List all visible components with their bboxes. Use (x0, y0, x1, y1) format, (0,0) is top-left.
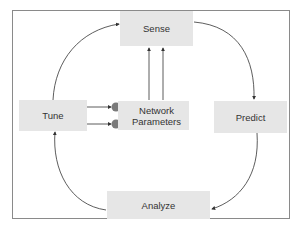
node-network-parameters-label-2: Parameters (132, 116, 181, 127)
node-predict: Predict (214, 101, 287, 133)
node-analyze: Analyze (107, 191, 210, 219)
node-sense: Sense (120, 11, 193, 46)
node-network-parameters-label-1: Network (139, 105, 174, 116)
node-tune: Tune (19, 100, 87, 131)
node-sense-label: Sense (143, 23, 170, 34)
node-tune-label: Tune (42, 110, 63, 121)
node-analyze-label: Analyze (142, 200, 176, 211)
node-network-parameters: Network Parameters (118, 101, 189, 130)
node-predict-label: Predict (236, 112, 266, 123)
